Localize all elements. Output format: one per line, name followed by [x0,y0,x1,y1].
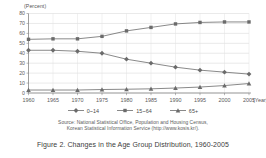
series-line [29,84,250,90]
legend-entry[interactable]: 15~64 [117,107,152,114]
legend-marker [124,109,127,112]
legend-entry[interactable]: 0~14 [68,107,100,114]
series-data-point [51,37,54,40]
series-data-point [125,29,128,32]
series-data-point [27,38,30,41]
y-axis-tick-label: 40 [19,50,25,56]
x-axis-tick-label: 2000 [219,97,231,103]
legend-diamond-icon [68,107,84,114]
series-data-point [222,70,227,75]
y-axis-tick-label: 50 [19,40,25,46]
legend-label: 65+ [189,108,198,114]
x-axis-tick-label: 1970 [72,97,84,103]
series-data-point [223,20,226,23]
legend-square-icon [117,107,133,114]
figure-caption: Figure 2. Changes in the Age Group Distr… [0,141,266,148]
series-data-point [174,22,177,25]
x-axis-unit-label: (Year) [253,97,266,103]
y-axis-tick-label: 20 [19,70,25,76]
caption-area: Figure 2. Changes in the Age Group Distr… [0,141,266,148]
x-axis-tick-label: 1965 [47,97,59,103]
x-axis-tick-label: 1990 [170,97,182,103]
y-axis-tick-label: 0 [22,90,25,96]
series-data-point [100,51,105,56]
series-data-point [76,37,79,40]
series-data-point [198,21,201,24]
series-data-point [247,72,252,77]
y-axis-tick-label: 70 [19,20,25,26]
x-axis-tick-label: 1975 [96,97,108,103]
chart-legend: 0~1415~6465+ [0,107,266,114]
legend-marker [73,108,78,113]
x-axis-tick-label: 1995 [194,97,206,103]
series-data-point [247,20,250,23]
chart-series [26,48,251,77]
series-data-point [100,35,103,38]
series-data-point [173,65,178,70]
series-data-point [26,48,31,53]
figure-container: (Percent) 010203040506070801960196519701… [0,0,266,158]
series-data-point [75,49,80,54]
series-data-point [124,57,129,62]
series-data-point [149,61,154,66]
y-axis-tick-label: 60 [19,30,25,36]
legend-triangle-icon [170,107,186,114]
source-line-2: Korean Statistical Information Service (… [0,126,266,132]
series-data-point [149,26,152,29]
x-axis-tick-label: 1985 [145,97,157,103]
legend-entry[interactable]: 65+ [170,107,198,114]
y-axis-tick-label: 30 [19,60,25,66]
legend-label: 15~64 [136,108,152,114]
y-axis-tick-label: 80 [19,10,25,16]
x-axis-tick-label: 1960 [23,97,35,103]
legend-label: 0~14 [87,108,100,114]
source-attribution: Source: National Statistical Office, Pop… [0,120,266,132]
series-data-point [51,48,56,53]
series-line [29,22,250,39]
series-data-point [198,68,203,73]
series-line [29,50,250,74]
y-axis-tick-label: 10 [19,80,25,86]
x-axis-tick-label: 1980 [121,97,133,103]
